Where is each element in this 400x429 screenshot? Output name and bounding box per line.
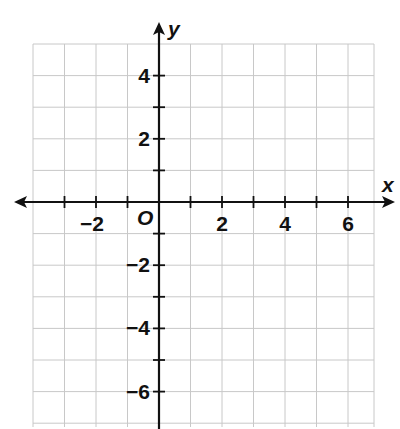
y-tick-label: 2: [138, 127, 150, 150]
y-tick-label: −4: [126, 316, 150, 339]
origin-label: O: [137, 206, 153, 229]
y-axis-label: y: [167, 17, 181, 40]
x-axis-label: x: [381, 173, 395, 196]
y-tick-label: −6: [126, 380, 150, 403]
grid-lines: [33, 44, 374, 427]
coordinate-plane: −224642−2−4−6 x y O: [0, 0, 400, 429]
x-tick-label: 2: [216, 212, 228, 235]
x-tick-label: 6: [342, 212, 354, 235]
x-tick-label: −2: [80, 212, 104, 235]
y-tick-label: −2: [126, 253, 150, 276]
axes: [14, 22, 395, 429]
x-tick-label: 4: [279, 212, 291, 235]
y-tick-label: 4: [138, 64, 150, 87]
